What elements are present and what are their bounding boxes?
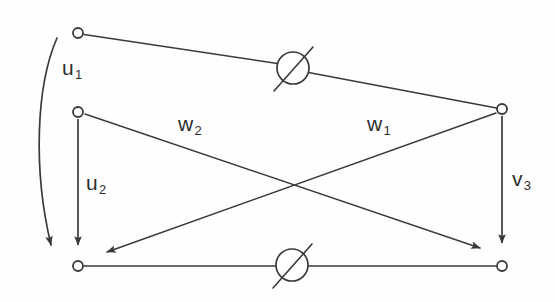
node-bottom-left — [73, 261, 83, 271]
label-w1-base: w — [367, 112, 382, 135]
arrow-w2 — [85, 114, 480, 248]
label-w1-subscript: 1 — [383, 123, 390, 138]
node-top-left — [73, 28, 83, 38]
label-w2-subscript: 2 — [194, 123, 201, 138]
node-bottom-right — [497, 261, 507, 271]
label-u1: u1 — [62, 57, 81, 78]
label-w2-base: w — [178, 112, 193, 135]
source-symbol-top — [274, 47, 313, 91]
branch-top-right-segment — [309, 73, 497, 109]
label-u1-base: u — [62, 56, 74, 79]
source-symbol-bottom — [273, 244, 312, 288]
label-u2: u2 — [86, 172, 105, 193]
branch-top-left-segment — [84, 35, 278, 64]
label-w1: w1 — [367, 113, 390, 134]
node-right-upper — [497, 104, 507, 114]
circuit-diagram: u1 u2 w2 w1 v3 — [0, 0, 555, 302]
arrow-u1 — [39, 38, 57, 245]
label-u2-base: u — [86, 171, 98, 194]
node-mid-left — [73, 107, 83, 117]
label-u2-subscript: 2 — [99, 182, 106, 197]
circuit-diagram-canvas — [0, 0, 555, 302]
label-w2: w2 — [178, 113, 201, 134]
label-v3-base: v — [512, 167, 523, 190]
label-v3-subscript: 3 — [524, 178, 531, 193]
label-u1-subscript: 1 — [75, 67, 82, 82]
arrow-w1 — [107, 113, 496, 252]
label-v3: v3 — [512, 168, 530, 189]
